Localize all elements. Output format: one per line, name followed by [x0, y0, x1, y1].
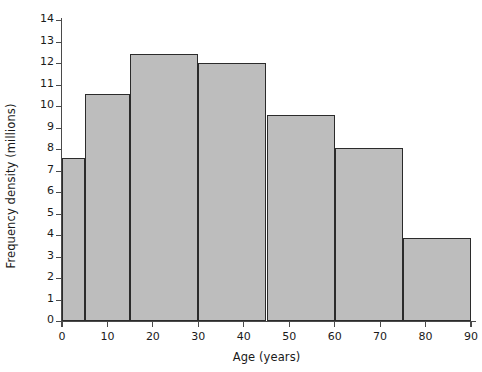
y-tick-label: 9: [47, 120, 54, 133]
x-tick-mark: [380, 321, 381, 327]
plot-area: 01234567891011121314 0102030405060708090: [62, 20, 471, 321]
y-tick-mark: [56, 128, 62, 129]
histogram-bar: [403, 238, 471, 321]
x-axis-line: [61, 321, 476, 322]
x-tick-label: 20: [139, 330, 167, 343]
histogram-bar: [130, 54, 198, 321]
x-tick-label: 50: [275, 330, 303, 343]
y-axis-title: Frequency density (millions): [0, 0, 22, 372]
y-tick-label: 11: [40, 77, 54, 90]
x-tick-mark: [470, 321, 471, 327]
x-tick-mark: [61, 321, 62, 327]
y-tick-label: 1: [47, 292, 54, 305]
x-tick-label: 0: [48, 330, 76, 343]
y-tick-label: 12: [40, 55, 54, 68]
x-tick-mark: [334, 321, 335, 327]
y-tick-mark: [56, 149, 62, 150]
x-tick-label: 70: [366, 330, 394, 343]
y-tick-label: 4: [47, 227, 54, 240]
x-tick-label: 10: [93, 330, 121, 343]
y-tick-mark: [56, 85, 62, 86]
x-tick-label: 30: [184, 330, 212, 343]
histogram-bar: [85, 94, 130, 321]
x-axis-title: Age (years): [62, 350, 471, 364]
y-tick-label: 3: [47, 249, 54, 262]
x-tick-mark: [107, 321, 108, 327]
y-tick-label: 14: [40, 12, 54, 25]
y-tick-label: 10: [40, 98, 54, 111]
y-tick-label: 6: [47, 184, 54, 197]
histogram-bar: [198, 63, 266, 321]
y-tick-label: 13: [40, 34, 54, 47]
histogram-figure: Frequency density (millions) 01234567891…: [0, 0, 482, 372]
x-tick-label: 90: [457, 330, 482, 343]
x-tick-label: 40: [230, 330, 258, 343]
x-tick-label: 80: [412, 330, 440, 343]
x-tick-mark: [243, 321, 244, 327]
y-tick-mark: [56, 106, 62, 107]
x-tick-mark: [198, 321, 199, 327]
x-tick-mark: [425, 321, 426, 327]
histogram-bar: [62, 158, 85, 321]
y-tick-label: 7: [47, 163, 54, 176]
y-tick-label: 2: [47, 270, 54, 283]
x-tick-mark: [289, 321, 290, 327]
y-tick-label: 0: [47, 313, 54, 326]
histogram-bar: [335, 148, 403, 321]
x-tick-mark: [152, 321, 153, 327]
x-tick-label: 60: [321, 330, 349, 343]
y-tick-mark: [56, 63, 62, 64]
y-tick-mark: [56, 42, 62, 43]
y-tick-label: 8: [47, 141, 54, 154]
y-tick-label: 5: [47, 206, 54, 219]
histogram-bar: [267, 115, 335, 321]
y-tick-mark: [56, 20, 62, 21]
